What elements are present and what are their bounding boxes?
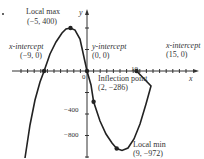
x-intercept-right-coords: (15, 0)	[166, 50, 187, 59]
y-tick-m800: −800	[64, 131, 78, 139]
local-min-label: Local min	[133, 140, 166, 149]
x-axis-label: x	[189, 74, 193, 83]
inflection-point	[91, 100, 95, 104]
inflection-label: Inflection point	[98, 74, 148, 83]
y-intercept-coords: (0, 0)	[92, 51, 109, 60]
y-intercept-label: y-intercept	[92, 42, 126, 51]
local-min-point	[115, 146, 119, 150]
y-axis-arrow-icon	[85, 9, 89, 15]
x-intercept-right-label: x-intercept	[166, 41, 200, 50]
local-max-label: Local max	[26, 7, 60, 16]
x-tick-10: 10	[131, 65, 138, 73]
x-axis-arrow-icon	[193, 69, 199, 73]
local-min-coords: (9, −972)	[133, 149, 163, 158]
local-max-point	[68, 26, 72, 30]
bullet-dot	[2, 13, 4, 15]
x-intercept-point-left	[42, 69, 46, 73]
x-tick-0: 0	[82, 73, 86, 81]
local-max-coords: (−5, 400)	[27, 17, 57, 26]
y-axis-label: y	[79, 8, 83, 17]
inflection-coords: (2, −286)	[98, 83, 128, 92]
y-tick-m400: −400	[64, 106, 78, 114]
x-intercept-left-label: x-intercept	[9, 42, 43, 51]
x-intercept-left-coords: (−9, 0)	[20, 51, 42, 60]
